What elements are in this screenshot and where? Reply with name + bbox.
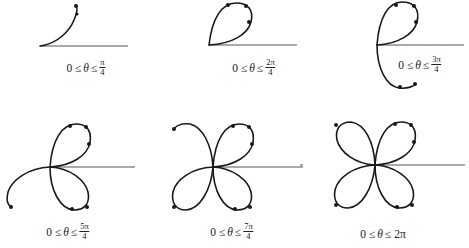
point-marker: [68, 124, 72, 128]
label-relation: ≤: [71, 226, 77, 238]
point-marker: [247, 125, 251, 129]
point-marker: [412, 4, 416, 8]
point-marker: [226, 3, 230, 7]
label-prefix: 0 ≤: [46, 226, 61, 238]
panel-1-range-label: 0 ≤ θ ≤ π 4: [66, 58, 105, 77]
label-relation: ≤: [235, 226, 241, 238]
label-prefix: 0 ≤: [232, 62, 247, 74]
panel-3-graph: [377, 2, 464, 89]
rose-curve-segment: [7, 167, 50, 207]
point-marker: [70, 207, 74, 211]
label-prefix: 0 ≤: [66, 62, 81, 74]
upper-bound-fraction: 3π 4: [431, 55, 442, 74]
point-marker: [334, 203, 338, 207]
rose-petal-3: [335, 165, 375, 208]
fraction-denominator: 4: [100, 68, 104, 77]
point-marker: [231, 124, 235, 128]
panel-5-graph: [172, 124, 303, 211]
panel-4-graph: [7, 124, 135, 211]
point-marker: [74, 4, 78, 8]
upper-bound: 2π: [394, 228, 406, 240]
rose-curve-segment: [40, 5, 77, 46]
panel-6-graph: [300, 122, 465, 209]
fraction-denominator: 4: [434, 65, 438, 74]
theta-symbol: θ: [377, 228, 383, 240]
theta-symbol: θ: [227, 226, 233, 238]
theta-symbol: θ: [63, 226, 69, 238]
fraction-denominator: 4: [246, 232, 250, 241]
label-relation: ≤: [257, 62, 263, 74]
rose-curve-figure: [0, 0, 469, 248]
point-marker: [248, 205, 252, 209]
point-marker: [394, 3, 398, 7]
rose-petal-2: [50, 167, 88, 210]
panel-5-range-label: 0 ≤ θ ≤ 7π 4: [210, 222, 253, 241]
point-marker: [87, 142, 91, 146]
panel-2-graph: [209, 3, 297, 45]
rose-petal-4: [337, 122, 375, 165]
panel-1-graph: [40, 4, 128, 46]
rose-petal-1: [375, 122, 415, 165]
point-marker: [410, 203, 414, 207]
theta-symbol: θ: [83, 62, 89, 74]
point-marker: [172, 205, 176, 209]
label-prefix: 0 ≤: [360, 228, 375, 240]
upper-bound-fraction: π 4: [99, 58, 105, 77]
point-marker: [334, 123, 338, 127]
point-marker: [233, 207, 237, 211]
label-prefix: 0 ≤: [398, 59, 413, 71]
label-relation: ≤: [423, 59, 429, 71]
rose-curve-segment: [174, 124, 213, 167]
point-marker: [244, 4, 248, 8]
point-marker: [412, 140, 416, 144]
theta-symbol: θ: [415, 59, 421, 71]
point-marker: [398, 85, 402, 89]
upper-bound-fraction: 2π 4: [265, 58, 276, 77]
point-marker: [409, 123, 413, 127]
point-marker: [395, 205, 399, 209]
rose-petal-3: [173, 167, 213, 210]
point-marker: [413, 82, 417, 86]
point-marker: [9, 205, 13, 209]
rose-petal-1: [209, 3, 252, 45]
panel-6-range-label: 0 ≤ θ ≤ 2π: [360, 228, 405, 240]
rose-petal-1: [377, 2, 418, 45]
fraction-denominator: 4: [82, 232, 86, 241]
panel-4-range-label: 0 ≤ θ ≤ 5π 4: [46, 222, 89, 241]
point-marker: [414, 20, 418, 24]
rose-petal-2: [213, 167, 251, 210]
point-marker: [84, 125, 88, 129]
upper-bound-fraction: 7π 4: [243, 222, 254, 241]
point-marker: [172, 127, 176, 131]
point-marker: [247, 20, 251, 24]
theta-symbol: θ: [249, 62, 255, 74]
label-prefix: 0 ≤: [210, 226, 225, 238]
label-relation: ≤: [385, 228, 391, 240]
rose-petal-1: [213, 124, 253, 167]
label-relation: ≤: [91, 62, 97, 74]
panel-2-range-label: 0 ≤ θ ≤ 2π 4: [232, 58, 275, 77]
point-marker: [393, 122, 397, 126]
rose-petal-1: [50, 124, 90, 167]
point-marker: [250, 142, 254, 146]
point-marker: [75, 12, 78, 15]
point-marker: [85, 205, 89, 209]
upper-bound-fraction: 5π 4: [79, 222, 90, 241]
panel-3-range-label: 0 ≤ θ ≤ 3π 4: [398, 55, 441, 74]
fraction-denominator: 4: [268, 68, 272, 77]
rose-petal-2: [375, 165, 413, 208]
